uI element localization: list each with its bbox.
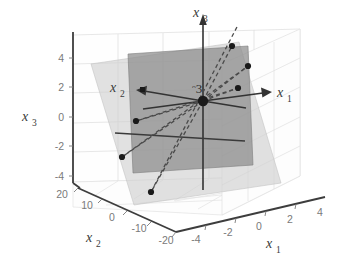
x2tick-label: 0	[109, 211, 115, 223]
data-point	[119, 154, 125, 160]
x1-arrow-label-sub: 1	[287, 94, 292, 104]
x3-arrow-label: x 3	[192, 5, 208, 24]
zaxis-label-base: x	[21, 109, 29, 124]
zaxis-label-sub: 3	[32, 118, 37, 128]
ztick-label: 2	[58, 81, 64, 93]
x2-arrow-base-marker	[140, 87, 145, 92]
data-point	[235, 85, 241, 91]
x2-arrow-label-base: x	[109, 80, 117, 95]
data-point	[148, 189, 154, 195]
x1-axis-name: x 1	[265, 236, 281, 255]
ztick-label: -4	[55, 170, 64, 182]
ztick-label: -2	[55, 140, 64, 152]
data-point	[229, 43, 235, 49]
x3-arrow-label-base: x	[192, 5, 200, 20]
x1-axis-name-sub: 1	[276, 245, 281, 255]
zaxis-label: x 3	[21, 109, 37, 128]
x2-axis-name: x 2	[85, 230, 101, 249]
x1tick-label: 2	[287, 213, 293, 225]
plot-canvas: 4 2 0 -2 -4 x 3 20 10 0 -10 -20 x 2 -4 -…	[0, 0, 341, 271]
figure-3d-subspace-plot: 4 2 0 -2 -4 x 3 20 10 0 -10 -20 x 2 -4 -…	[0, 0, 341, 271]
ztick-label: 4	[58, 52, 64, 64]
zaxis-tick-labels: 4 2 0 -2 -4	[55, 52, 65, 182]
x2tick-label: -20	[158, 234, 173, 246]
x1tick-label: 0	[256, 220, 262, 232]
x2-axis-name-base: x	[85, 230, 93, 245]
x2-axis-name-sub: 2	[96, 239, 101, 249]
x2tick-label: 20	[56, 188, 68, 200]
x1-arrow-label-base: x	[276, 85, 284, 100]
x2-arrow-label-sub: 2	[120, 89, 125, 99]
data-point	[245, 63, 251, 69]
x2tick-label: 10	[81, 199, 93, 211]
x1tick-label: -4	[191, 233, 200, 245]
origin-point-marker	[198, 96, 208, 106]
data-point	[133, 118, 139, 124]
ztick-label: 0	[58, 111, 64, 123]
x2tick-label: -10	[131, 222, 146, 234]
x1tick-label: -2	[223, 226, 232, 238]
axis-base-markers	[140, 87, 145, 92]
x3-arrow-label-sub: 3	[203, 14, 208, 24]
x1tick-label: 4	[317, 206, 323, 218]
x1-axis-name-base: x	[265, 236, 273, 251]
subspace-L-annotation: ᵔ3	[192, 81, 202, 96]
